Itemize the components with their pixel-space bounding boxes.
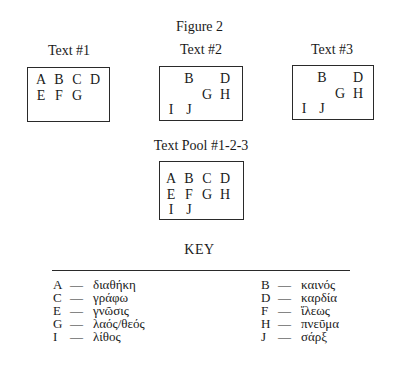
letter-h: H <box>351 87 365 101</box>
key-letter: I <box>53 330 67 343</box>
letter-e: E <box>34 89 48 103</box>
letter-h: H <box>218 188 232 202</box>
key-word: σάρξ <box>301 330 327 343</box>
text-1-box: ABCDEFG <box>27 67 110 122</box>
letter-g: G <box>333 87 347 101</box>
letter-c: C <box>200 172 214 186</box>
text-3-label: Text #3 <box>272 42 392 58</box>
text-2-label: Text #2 <box>141 42 261 58</box>
key-word: λίθος <box>93 330 121 343</box>
key-dash: — <box>278 330 291 343</box>
letter-b: B <box>315 71 329 85</box>
letter-f: F <box>182 188 196 202</box>
text-pool-box: ABCDEFGHIJ <box>159 161 244 220</box>
letter-d: D <box>218 172 232 186</box>
letter-a: A <box>164 172 178 186</box>
letter-c: C <box>70 73 84 87</box>
letter-j: J <box>182 203 196 217</box>
key-right-column: B — καινός D — καρδία F — ἵλεως H — πνεῦ… <box>261 278 391 343</box>
letter-g: G <box>200 88 214 102</box>
letter-f: F <box>52 89 66 103</box>
letter-b: B <box>182 72 196 86</box>
letter-b: B <box>182 172 196 186</box>
key-entry: J — σάρξ <box>261 330 391 343</box>
key-entry: I — λίθος <box>53 330 203 343</box>
text-2-box: BDGHIJ <box>159 66 243 121</box>
text-pool-label: Text Pool #1-2-3 <box>131 138 271 154</box>
letter-i: I <box>164 103 178 117</box>
letter-i: I <box>297 102 311 116</box>
letter-a: A <box>34 73 48 87</box>
figure-title: Figure 2 <box>0 19 399 35</box>
letter-d: D <box>88 73 102 87</box>
text-1-label: Text #1 <box>9 43 129 59</box>
key-letter: J <box>261 330 275 343</box>
letter-i: I <box>164 203 178 217</box>
letter-d: D <box>351 71 365 85</box>
letter-h: H <box>218 88 232 102</box>
letter-d: D <box>218 72 232 86</box>
letter-b: B <box>52 73 66 87</box>
key-dash: — <box>70 330 83 343</box>
key-divider <box>52 270 350 271</box>
key-left-column: A — διαθήκη C — γράφω E — γνῶσις G — λαό… <box>53 278 203 343</box>
key-title: KEY <box>0 242 399 258</box>
letter-g: G <box>200 188 214 202</box>
letter-j: J <box>315 102 329 116</box>
letter-e: E <box>164 188 178 202</box>
text-3-box: BDGHIJ <box>292 65 374 120</box>
letter-g: G <box>70 89 84 103</box>
letter-j: J <box>182 103 196 117</box>
